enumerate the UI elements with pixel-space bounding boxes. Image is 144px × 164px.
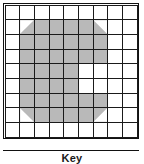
grid-figure-frame	[3, 3, 139, 139]
grid-cell-r1-c1	[5, 5, 21, 21]
grid-cell-r8-c2	[19, 107, 35, 123]
grid-cell-r3-c5	[63, 34, 79, 50]
grid-cell-r7-c5	[63, 93, 79, 109]
grid-cell-r9-c6	[78, 122, 94, 138]
grid-cell-r1-c9	[122, 5, 138, 21]
grid-cell-r6-c7	[93, 78, 109, 94]
grid-cell-r4-c5	[63, 49, 79, 65]
grid-cell-r6-c2	[19, 78, 35, 94]
grid-cell-r1-c7	[93, 5, 109, 21]
grid-cell-r1-c3	[34, 5, 50, 21]
grid-cell-r7-c4	[49, 93, 65, 109]
grid-cell-r2-c1	[5, 19, 21, 35]
grid-cell-r8-c1	[5, 107, 21, 123]
grid-cell-r4-c3	[34, 49, 50, 65]
grid-cell-r4-c9	[122, 49, 138, 65]
grid-cell-r3-c4	[49, 34, 65, 50]
grid-cell-r5-c1	[5, 63, 21, 79]
grid-cell-r7-c6	[78, 93, 94, 109]
grid-cell-r4-c4	[49, 49, 65, 65]
grid-cell-r8-c6	[78, 107, 94, 123]
grid-cell-r7-c7	[93, 93, 109, 109]
grid-cell-r6-c3	[34, 78, 50, 94]
grid-cell-r9-c5	[63, 122, 79, 138]
grid-cell-r4-c6	[78, 49, 94, 65]
grid-cell-r3-c2	[19, 34, 35, 50]
grid-cell-r2-c4	[49, 19, 65, 35]
grid-cell-r9-c3	[34, 122, 50, 138]
grid-cell-r5-c9	[122, 63, 138, 79]
grid-cell-r6-c4	[49, 78, 65, 94]
grid-cell-r9-c1	[5, 122, 21, 138]
grid-cell-r9-c9	[122, 122, 138, 138]
figure-caption-key: Key	[0, 152, 144, 164]
grid-cell-r8-c5	[63, 107, 79, 123]
grid-cell-r5-c3	[34, 63, 50, 79]
pixel-grid	[5, 5, 137, 137]
grid-cell-r4-c8	[107, 49, 123, 65]
grid-cell-r9-c2	[19, 122, 35, 138]
grid-cell-r6-c8	[107, 78, 123, 94]
grid-cell-r5-c7	[93, 63, 109, 79]
grid-cell-r8-c7	[93, 107, 109, 123]
grid-cell-r5-c2	[19, 63, 35, 79]
grid-cell-r6-c9	[122, 78, 138, 94]
grid-cell-r7-c1	[5, 93, 21, 109]
grid-cell-r4-c1	[5, 49, 21, 65]
grid-cell-r2-c8	[107, 19, 123, 35]
figure-page: Key	[0, 0, 144, 164]
grid-cell-r8-c3	[34, 107, 50, 123]
grid-cell-r2-c7	[93, 19, 109, 35]
grid-cell-r9-c4	[49, 122, 65, 138]
grid-cell-r1-c2	[19, 5, 35, 21]
grid-cell-r8-c9	[122, 107, 138, 123]
grid-cell-r2-c6	[78, 19, 94, 35]
grid-cell-r2-c2	[19, 19, 35, 35]
grid-cell-r7-c9	[122, 93, 138, 109]
grid-cell-r5-c6	[78, 63, 94, 79]
grid-cell-r7-c2	[19, 93, 35, 109]
grid-cell-r6-c5	[63, 78, 79, 94]
grid-cell-r7-c8	[107, 93, 123, 109]
grid-cell-r3-c3	[34, 34, 50, 50]
grid-cell-r8-c4	[49, 107, 65, 123]
grid-cell-r3-c8	[107, 34, 123, 50]
grid-cell-r1-c5	[63, 5, 79, 21]
grid-cell-r9-c8	[107, 122, 123, 138]
grid-cell-r6-c1	[5, 78, 21, 94]
grid-cell-r8-c8	[107, 107, 123, 123]
caption-divider-rule	[3, 150, 139, 151]
grid-cell-r3-c1	[5, 34, 21, 50]
grid-cell-r3-c6	[78, 34, 94, 50]
grid-cell-r6-c6	[78, 78, 94, 94]
grid-cell-r1-c6	[78, 5, 94, 21]
grid-cell-r1-c4	[49, 5, 65, 21]
grid-cell-r2-c3	[34, 19, 50, 35]
grid-cell-r2-c5	[63, 19, 79, 35]
grid-cell-r3-c7	[93, 34, 109, 50]
grid-cell-r5-c8	[107, 63, 123, 79]
grid-cell-r7-c3	[34, 93, 50, 109]
grid-cell-r2-c9	[122, 19, 138, 35]
grid-cell-r5-c4	[49, 63, 65, 79]
grid-cell-r1-c8	[107, 5, 123, 21]
grid-cell-r5-c5	[63, 63, 79, 79]
grid-cell-r9-c7	[93, 122, 109, 138]
grid-cell-r4-c7	[93, 49, 109, 65]
grid-cell-r4-c2	[19, 49, 35, 65]
grid-cell-r3-c9	[122, 34, 138, 50]
